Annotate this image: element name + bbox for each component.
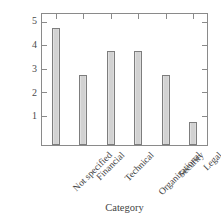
x-tick-mark-top-3 <box>138 14 139 19</box>
x-axis-tick-labels: Not specified Financial Technical Organi… <box>0 150 221 202</box>
bar-legal <box>189 122 197 145</box>
x-tick-mark-top-5 <box>193 14 194 19</box>
x-tick-mark-top-2 <box>111 14 112 19</box>
y-tick-label-2: 2 <box>32 88 37 98</box>
bar-security <box>162 75 170 145</box>
y-tick-mark-1 <box>42 116 47 117</box>
bar-not-specified <box>52 28 60 145</box>
y-tick-mark-5 <box>42 22 47 23</box>
x-tick-mark-top-1 <box>83 14 84 19</box>
plot-area <box>41 13 208 146</box>
bar-organizational <box>134 51 142 145</box>
y-tick-mark-right-5 <box>202 22 207 23</box>
x-tick-mark-top-0 <box>56 14 57 19</box>
y-tick-mark-right-2 <box>202 92 207 93</box>
y-tick-label-1: 1 <box>32 111 37 121</box>
bar-technical <box>107 51 115 145</box>
y-tick-label-3: 3 <box>32 64 37 74</box>
y-tick-mark-right-4 <box>202 45 207 46</box>
y-axis-title-text: Number of studies <box>0 0 13 12</box>
x-tick-mark-top-4 <box>166 14 167 19</box>
y-tick-label-4: 4 <box>32 40 37 50</box>
y-tick-label-5: 5 <box>32 16 37 26</box>
bar-chart-figure: Number of studies 5 4 3 2 1 <box>0 0 221 223</box>
y-tick-mark-right-1 <box>202 116 207 117</box>
x-tick-label-technical: Technical <box>123 150 156 183</box>
y-tick-mark-right-3 <box>202 69 207 70</box>
x-axis-title: Category <box>41 202 208 213</box>
bar-financial <box>79 75 87 145</box>
y-axis-tick-labels: 5 4 3 2 1 <box>20 13 37 146</box>
x-tick-label-legal: Legal <box>201 150 221 172</box>
y-tick-mark-4 <box>42 45 47 46</box>
y-tick-mark-2 <box>42 92 47 93</box>
y-axis-title: Number of studies <box>0 0 13 12</box>
y-tick-mark-3 <box>42 69 47 70</box>
